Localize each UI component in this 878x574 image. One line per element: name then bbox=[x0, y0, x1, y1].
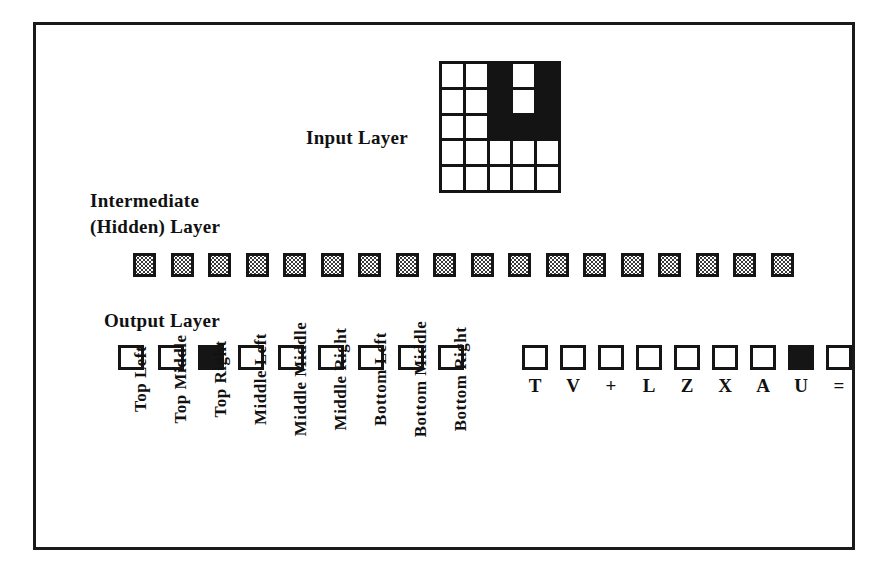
output-position-label-text-7: Bottom Left bbox=[371, 332, 391, 426]
hidden-unit-10[interactable] bbox=[471, 253, 494, 277]
output-symbol-unit-wrap-4: L bbox=[636, 345, 662, 370]
output-symbol-unit-U[interactable] bbox=[788, 345, 814, 370]
input-cell-r5-c1[interactable] bbox=[442, 167, 463, 190]
output-symbol-unit-wrap-6: X bbox=[712, 345, 738, 370]
output-position-label-text-4: Middle Left bbox=[251, 333, 271, 425]
output-symbol-label-L: L bbox=[636, 375, 662, 397]
output-symbol-label-=: = bbox=[826, 375, 852, 397]
output-position-unit-wrap-3: Top Right bbox=[198, 345, 224, 370]
output-symbol-unit-wrap-9: = bbox=[826, 345, 852, 370]
output-symbol-unit-X[interactable] bbox=[712, 345, 738, 370]
output-position-label-text-2: Top Middle bbox=[171, 335, 191, 424]
output-position-unit-wrap-2: Top Middle bbox=[158, 345, 184, 370]
input-cell-r1-c5[interactable] bbox=[537, 64, 558, 87]
output-position-unit-wrap-7: Bottom Left bbox=[358, 345, 384, 370]
input-cell-r2-c4[interactable] bbox=[513, 90, 534, 113]
output-symbol-unit-T[interactable] bbox=[522, 345, 548, 370]
input-layer-label: Input Layer bbox=[306, 125, 408, 151]
hidden-layer-label-line2: (Hidden) Layer bbox=[90, 214, 220, 240]
output-symbol-label-T: T bbox=[522, 375, 548, 397]
hidden-unit-8[interactable] bbox=[396, 253, 419, 277]
output-position-unit-wrap-6: Middle Right bbox=[318, 345, 344, 370]
hidden-unit-5[interactable] bbox=[283, 253, 306, 277]
input-cell-r1-c2[interactable] bbox=[466, 64, 487, 87]
input-cell-r4-c2[interactable] bbox=[466, 141, 487, 164]
hidden-unit-1[interactable] bbox=[133, 253, 156, 277]
output-symbol-unit-wrap-3: + bbox=[598, 345, 624, 370]
output-position-label-text-8: Bottom Middle bbox=[411, 321, 431, 438]
hidden-unit-11[interactable] bbox=[508, 253, 531, 277]
output-symbol-unit-wrap-2: V bbox=[560, 345, 586, 370]
output-symbol-unit-Z[interactable] bbox=[674, 345, 700, 370]
input-cell-r3-c5[interactable] bbox=[537, 116, 558, 139]
output-symbol-label-V: V bbox=[560, 375, 586, 397]
output-layer-label: Output Layer bbox=[104, 308, 220, 334]
hidden-layer-units bbox=[133, 253, 794, 277]
input-cell-r5-c3[interactable] bbox=[490, 167, 511, 190]
output-position-unit-wrap-9: Bottom Right bbox=[438, 345, 464, 370]
input-cell-r1-c1[interactable] bbox=[442, 64, 463, 87]
hidden-unit-6[interactable] bbox=[321, 253, 344, 277]
input-cell-r2-c1[interactable] bbox=[442, 90, 463, 113]
output-position-units: Top LeftTop MiddleTop RightMiddle LeftMi… bbox=[118, 345, 464, 370]
output-position-unit-wrap-1: Top Left bbox=[118, 345, 144, 370]
input-cell-r4-c1[interactable] bbox=[442, 141, 463, 164]
output-position-label-text-6: Middle Right bbox=[331, 328, 351, 431]
output-symbol-unit-V[interactable] bbox=[560, 345, 586, 370]
input-cell-r4-c3[interactable] bbox=[490, 141, 511, 164]
hidden-layer-label: Intermediate (Hidden) Layer bbox=[90, 188, 220, 240]
input-cell-r5-c4[interactable] bbox=[513, 167, 534, 190]
input-cell-r2-c2[interactable] bbox=[466, 90, 487, 113]
input-cell-r2-c5[interactable] bbox=[537, 90, 558, 113]
input-cell-r4-c4[interactable] bbox=[513, 141, 534, 164]
hidden-layer-label-line1: Intermediate bbox=[90, 188, 220, 214]
output-symbol-label-Z: Z bbox=[674, 375, 700, 397]
input-cell-r1-c4[interactable] bbox=[513, 64, 534, 87]
hidden-unit-18[interactable] bbox=[771, 253, 794, 277]
hidden-unit-17[interactable] bbox=[733, 253, 756, 277]
input-cell-r5-c2[interactable] bbox=[466, 167, 487, 190]
input-cell-r3-c3[interactable] bbox=[490, 116, 511, 139]
diagram-frame: Input Layer Intermediate (Hidden) Layer … bbox=[33, 22, 855, 550]
output-position-label-text-9: Bottom Right bbox=[451, 327, 471, 432]
input-cell-r4-c5[interactable] bbox=[537, 141, 558, 164]
hidden-unit-16[interactable] bbox=[696, 253, 719, 277]
output-symbol-unit-wrap-8: U bbox=[788, 345, 814, 370]
input-layer-grid bbox=[439, 61, 561, 193]
output-symbol-label-+: + bbox=[598, 375, 624, 397]
input-cell-r3-c4[interactable] bbox=[513, 116, 534, 139]
output-symbol-label-A: A bbox=[750, 375, 776, 397]
hidden-unit-13[interactable] bbox=[583, 253, 606, 277]
hidden-unit-4[interactable] bbox=[246, 253, 269, 277]
hidden-unit-3[interactable] bbox=[208, 253, 231, 277]
output-position-label-text-3: Top Right bbox=[211, 340, 231, 417]
hidden-unit-15[interactable] bbox=[658, 253, 681, 277]
output-symbol-unit-=[interactable] bbox=[826, 345, 852, 370]
output-symbol-unit-wrap-7: A bbox=[750, 345, 776, 370]
hidden-unit-7[interactable] bbox=[358, 253, 381, 277]
hidden-unit-9[interactable] bbox=[433, 253, 456, 277]
output-position-unit-wrap-8: Bottom Middle bbox=[398, 345, 424, 370]
output-position-unit-wrap-5: Middle Middle bbox=[278, 345, 304, 370]
input-cell-r2-c3[interactable] bbox=[490, 90, 511, 113]
input-cell-r5-c5[interactable] bbox=[537, 167, 558, 190]
hidden-unit-2[interactable] bbox=[171, 253, 194, 277]
output-symbol-label-U: U bbox=[788, 375, 814, 397]
output-position-label-text-1: Top Left bbox=[131, 346, 151, 412]
neural-network-diagram: Input Layer Intermediate (Hidden) Layer … bbox=[0, 0, 878, 574]
output-symbol-unit-A[interactable] bbox=[750, 345, 776, 370]
output-position-label-text-5: Middle Middle bbox=[291, 322, 311, 437]
output-symbol-unit-L[interactable] bbox=[636, 345, 662, 370]
output-position-unit-wrap-4: Middle Left bbox=[238, 345, 264, 370]
output-symbol-unit-wrap-1: T bbox=[522, 345, 548, 370]
input-cell-r3-c2[interactable] bbox=[466, 116, 487, 139]
output-symbol-label-X: X bbox=[712, 375, 738, 397]
hidden-unit-12[interactable] bbox=[546, 253, 569, 277]
output-symbol-unit-+[interactable] bbox=[598, 345, 624, 370]
input-cell-r1-c3[interactable] bbox=[490, 64, 511, 87]
hidden-unit-14[interactable] bbox=[621, 253, 644, 277]
input-cell-r3-c1[interactable] bbox=[442, 116, 463, 139]
output-symbol-units: TV+LZXAU= bbox=[522, 345, 852, 370]
output-symbol-unit-wrap-5: Z bbox=[674, 345, 700, 370]
